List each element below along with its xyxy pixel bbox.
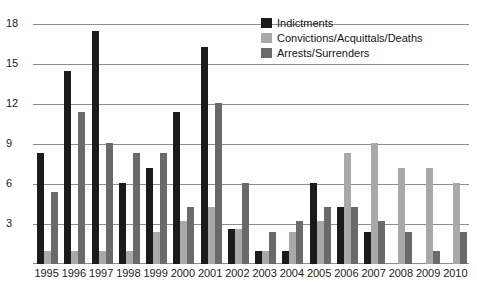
- x-axis-tick-label: 2010: [435, 267, 475, 279]
- bar: [351, 207, 358, 264]
- bar: [242, 183, 249, 264]
- bar: [173, 112, 180, 264]
- bar-group: [119, 16, 140, 264]
- bar: [37, 153, 44, 264]
- bar: [119, 183, 126, 264]
- bar: [99, 251, 106, 264]
- legend-swatch-indictments: [261, 18, 272, 28]
- bar-group: [37, 16, 58, 264]
- bar: [317, 221, 324, 264]
- bar-group: [228, 16, 249, 264]
- bar: [364, 232, 371, 264]
- bar: [44, 251, 51, 264]
- legend-item-label: Arrests/Surrenders: [277, 47, 369, 59]
- bar: [187, 207, 194, 264]
- bar: [78, 112, 85, 264]
- bar: [289, 232, 296, 264]
- y-axis-tick-label: 6: [6, 178, 30, 189]
- bar: [453, 183, 460, 264]
- bar-group: [92, 16, 113, 264]
- bar: [71, 251, 78, 264]
- legend-item-label: Convictions/Acquittals/Deaths: [277, 32, 423, 44]
- bar: [180, 221, 187, 264]
- bar: [106, 143, 113, 264]
- bar: [296, 221, 303, 264]
- bar: [426, 168, 433, 264]
- bar: [344, 153, 351, 264]
- bar: [126, 251, 133, 264]
- bar: [405, 232, 412, 264]
- legend-swatch-convictions: [261, 33, 272, 43]
- bar: [64, 71, 71, 264]
- bar: [255, 251, 262, 264]
- legend-item[interactable]: Arrests/Surrenders: [261, 46, 466, 60]
- y-axis-tick-label: 9: [6, 138, 30, 149]
- bar: [282, 251, 289, 264]
- legend-swatch-arrests: [261, 48, 272, 58]
- bar-group: [64, 16, 85, 264]
- bar: [460, 232, 467, 264]
- bar: [215, 103, 222, 264]
- bar: [228, 229, 235, 264]
- bar: [269, 232, 276, 264]
- y-axis-tick-label: 3: [6, 218, 30, 229]
- bar: [153, 232, 160, 264]
- bar: [51, 192, 58, 264]
- legend-item[interactable]: Convictions/Acquittals/Deaths: [261, 31, 466, 45]
- bar: [133, 153, 140, 264]
- bar: [146, 168, 153, 264]
- bar: [398, 168, 405, 264]
- bar: [262, 251, 269, 264]
- y-axis-tick-label: 15: [6, 58, 30, 69]
- bar: [201, 47, 208, 264]
- bar: [160, 153, 167, 264]
- chart-legend: IndictmentsConvictions/Acquittals/Deaths…: [261, 16, 466, 61]
- legend-item-label: Indictments: [277, 17, 333, 29]
- y-axis-tick-label: 12: [6, 98, 30, 109]
- y-axis-tick-label: 18: [6, 18, 30, 29]
- bar: [235, 229, 242, 264]
- bar: [337, 207, 344, 264]
- bar: [208, 207, 215, 264]
- bar-chart: 369121518 199519961997199819992000200120…: [0, 0, 477, 294]
- bar-group: [146, 16, 167, 264]
- bar: [433, 251, 440, 264]
- bar: [92, 31, 99, 264]
- bar: [371, 143, 378, 264]
- bar-group: [201, 16, 222, 264]
- bar: [324, 207, 331, 264]
- bar: [310, 183, 317, 264]
- legend-item[interactable]: Indictments: [261, 16, 466, 30]
- bar-group: [173, 16, 194, 264]
- bar: [378, 221, 385, 264]
